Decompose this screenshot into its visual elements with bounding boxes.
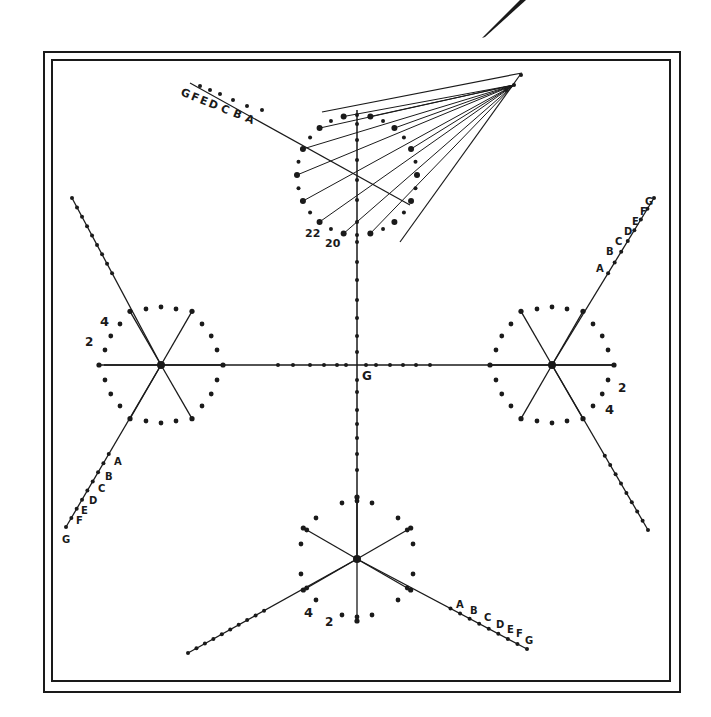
- dot: [367, 114, 373, 120]
- right-figure: [487, 196, 656, 532]
- dot: [396, 516, 401, 521]
- dot: [614, 472, 618, 476]
- dot: [355, 350, 359, 354]
- dot: [110, 271, 114, 275]
- dot: [565, 419, 570, 424]
- dot: [355, 260, 359, 264]
- dot: [101, 461, 105, 465]
- ray: [303, 85, 514, 201]
- dot: [635, 509, 639, 513]
- dot: [388, 363, 392, 367]
- dot: [276, 363, 280, 367]
- central-axes: G: [104, 110, 612, 560]
- diagram-canvas: G GFEDCBA 22 20 4 2 A B C D E F G 2 4 A …: [0, 0, 711, 717]
- dot: [254, 613, 258, 617]
- dot: [515, 642, 519, 646]
- dot: [613, 260, 617, 264]
- dot: [401, 363, 405, 367]
- dot: [308, 136, 312, 140]
- svg-text:B: B: [470, 605, 478, 616]
- dot: [413, 186, 417, 190]
- dot: [314, 598, 319, 603]
- dot: [355, 408, 359, 412]
- dot: [103, 378, 108, 383]
- dot: [300, 146, 306, 152]
- left-label-4: 4: [100, 314, 109, 329]
- dot: [291, 363, 295, 367]
- center-label: G: [362, 369, 372, 383]
- dot: [477, 622, 481, 626]
- dot: [107, 452, 111, 456]
- dot: [85, 489, 89, 493]
- dot: [329, 227, 333, 231]
- dot: [626, 239, 630, 243]
- dot: [85, 224, 89, 228]
- dot: [355, 316, 359, 320]
- top-point-label-20: 20: [325, 237, 341, 250]
- dot: [144, 419, 149, 424]
- dot: [118, 404, 123, 409]
- dot: [458, 612, 462, 616]
- dot: [231, 98, 235, 102]
- dot: [209, 334, 214, 339]
- dot: [494, 378, 499, 383]
- dot: [341, 230, 347, 236]
- dot: [215, 348, 220, 353]
- dot: [64, 525, 68, 529]
- dot: [91, 479, 95, 483]
- dot: [355, 113, 359, 117]
- dot: [159, 421, 164, 426]
- dot: [237, 623, 241, 627]
- dot: [550, 305, 555, 310]
- dot: [341, 114, 347, 120]
- dot: [103, 348, 108, 353]
- dot: [525, 647, 529, 651]
- dot: [509, 404, 514, 409]
- svg-text:G: G: [525, 635, 533, 646]
- dot: [518, 416, 523, 421]
- dot: [157, 361, 165, 369]
- svg-text:E: E: [632, 216, 639, 227]
- dot: [518, 309, 523, 314]
- dot: [108, 392, 113, 397]
- dot: [294, 172, 300, 178]
- dot: [364, 363, 368, 367]
- dot: [340, 613, 345, 618]
- dot: [174, 307, 179, 312]
- ray: [344, 85, 514, 233]
- dot: [220, 632, 224, 636]
- dot: [228, 628, 232, 632]
- dot: [355, 334, 359, 338]
- dot: [340, 501, 345, 506]
- dot: [355, 378, 359, 382]
- dot: [355, 422, 359, 426]
- bottom-axis-labels: A B C D E F G: [456, 599, 533, 646]
- dot: [308, 363, 312, 367]
- dot: [95, 243, 99, 247]
- dot: [374, 363, 378, 367]
- dot: [75, 205, 79, 209]
- dot: [355, 390, 359, 394]
- dot: [535, 419, 540, 424]
- dot: [317, 125, 323, 131]
- bottom-figure: [186, 494, 529, 655]
- dot: [370, 501, 375, 506]
- dot: [550, 421, 555, 426]
- dot: [519, 73, 523, 77]
- svg-text:E: E: [507, 624, 514, 635]
- dot: [355, 615, 360, 620]
- dot: [211, 637, 215, 641]
- svg-text:G: G: [645, 196, 653, 207]
- dot: [329, 119, 333, 123]
- dot: [355, 452, 359, 456]
- dot: [391, 125, 397, 131]
- svg-text:C: C: [615, 236, 622, 247]
- dot: [215, 378, 220, 383]
- dot: [499, 392, 504, 397]
- dot: [208, 88, 212, 92]
- left-label-2: 2: [85, 335, 93, 349]
- dot: [499, 334, 504, 339]
- dot: [591, 322, 596, 327]
- svg-text:G: G: [62, 534, 70, 545]
- svg-text:F: F: [640, 206, 647, 217]
